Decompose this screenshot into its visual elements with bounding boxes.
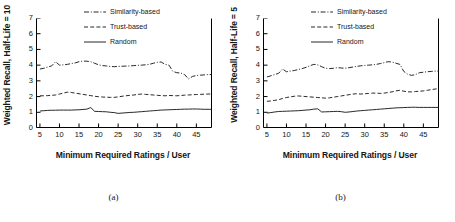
legend-label: Trust-based xyxy=(110,23,147,31)
panel-a: Weighted Recall, Half-Life = 10 01234567… xyxy=(0,0,227,222)
caption-b: (b) xyxy=(227,192,454,202)
x-tick-label: 10 xyxy=(55,131,63,139)
legend-key-trust-based xyxy=(311,23,333,31)
x-tick-label: 45 xyxy=(192,131,200,139)
y-tick-label: 0 xyxy=(29,124,33,132)
legend-key-similarity-based xyxy=(84,8,106,16)
x-tick-label: 5 xyxy=(265,131,269,139)
x-axis-label-a: Minimum Required Ratings / User xyxy=(28,150,218,160)
y-tick-label: 7 xyxy=(29,14,33,22)
legend-item: Similarity-based xyxy=(84,6,174,17)
series-line-similarity-based xyxy=(267,62,439,77)
y-tick-label: 0 xyxy=(256,124,260,132)
x-tick-label: 15 xyxy=(302,131,310,139)
x-tick-label: 40 xyxy=(173,131,181,139)
panel-b: Weighted Recall, Half-Life = 5 012345675… xyxy=(227,0,454,222)
x-tick-label: 5 xyxy=(38,131,42,139)
caption-a: (a) xyxy=(0,192,227,202)
y-tick-label: 4 xyxy=(256,61,260,69)
x-tick-label: 20 xyxy=(321,131,329,139)
y-tick-label: 1 xyxy=(29,109,33,117)
legend-label: Random xyxy=(110,38,136,46)
series-line-similarity-based xyxy=(40,61,212,79)
series-line-trust-based xyxy=(267,89,439,102)
series-line-trust-based xyxy=(40,92,212,97)
legend-item: Trust-based xyxy=(84,21,174,32)
legend-item: Random xyxy=(311,36,401,47)
x-tick-label: 35 xyxy=(153,131,161,139)
y-tick-label: 5 xyxy=(256,46,260,54)
y-tick-label: 3 xyxy=(256,77,260,85)
x-tick-label: 10 xyxy=(282,131,290,139)
y-tick-label: 4 xyxy=(29,61,33,69)
y-tick-label: 6 xyxy=(256,30,260,38)
legend-label: Trust-based xyxy=(337,23,374,31)
legend-key-random xyxy=(84,38,106,46)
legend: Similarity-basedTrust-basedRandom xyxy=(311,6,401,51)
x-tick-label: 20 xyxy=(94,131,102,139)
legend-key-random xyxy=(311,38,333,46)
legend-key-similarity-based xyxy=(311,8,333,16)
y-tick-label: 1 xyxy=(256,109,260,117)
x-tick-label: 30 xyxy=(361,131,369,139)
legend: Similarity-basedTrust-basedRandom xyxy=(84,6,174,51)
y-axis-label-b: Weighted Recall, Half-Life = 5 xyxy=(229,0,243,130)
x-tick-label: 40 xyxy=(400,131,408,139)
y-tick-label: 7 xyxy=(256,14,260,22)
x-tick-label: 45 xyxy=(419,131,427,139)
legend-item: Similarity-based xyxy=(311,6,401,17)
legend-label: Similarity-based xyxy=(110,8,160,16)
y-tick-label: 6 xyxy=(29,30,33,38)
x-tick-label: 25 xyxy=(114,131,122,139)
y-axis-label-a: Weighted Recall, Half-Life = 10 xyxy=(2,0,16,130)
y-tick-label: 3 xyxy=(29,77,33,85)
plot-area-a: Weighted Recall, Half-Life = 10 01234567… xyxy=(0,0,227,182)
legend-label: Similarity-based xyxy=(337,8,387,16)
series-line-random xyxy=(40,108,212,114)
legend-key-trust-based xyxy=(84,23,106,31)
y-tick-label: 2 xyxy=(29,93,33,101)
x-tick-label: 30 xyxy=(134,131,142,139)
figure-container: Weighted Recall, Half-Life = 10 01234567… xyxy=(0,0,455,222)
x-axis-label-b: Minimum Required Ratings / User xyxy=(255,150,445,160)
legend-label: Random xyxy=(337,38,363,46)
x-tick-label: 15 xyxy=(75,131,83,139)
x-tick-label: 35 xyxy=(380,131,388,139)
y-tick-label: 5 xyxy=(29,46,33,54)
legend-item: Random xyxy=(84,36,174,47)
y-tick-label: 2 xyxy=(256,93,260,101)
plot-area-b: Weighted Recall, Half-Life = 5 012345675… xyxy=(227,0,454,182)
legend-item: Trust-based xyxy=(311,21,401,32)
x-tick-label: 25 xyxy=(341,131,349,139)
series-line-random xyxy=(267,107,439,113)
